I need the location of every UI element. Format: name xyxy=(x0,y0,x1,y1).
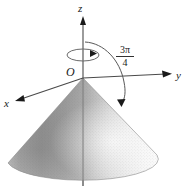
angle-label: 3π 4 xyxy=(116,44,134,68)
cone-halftone-texture xyxy=(0,60,189,190)
angle-arc-arrowhead xyxy=(117,99,126,107)
z-axis-label: z xyxy=(77,2,83,14)
angle-numerator: 3π xyxy=(120,44,130,55)
cone-surface xyxy=(0,60,189,190)
angle-denominator: 4 xyxy=(123,57,128,68)
y-axis-line xyxy=(83,74,166,78)
figure-canvas: z y xyxy=(0,0,189,190)
y-axis-label: y xyxy=(175,69,181,81)
x-axis-label: x xyxy=(3,97,9,109)
y-axis-arrowhead xyxy=(162,71,172,78)
z-axis-arrowhead xyxy=(80,16,86,25)
y-axis: y xyxy=(83,69,181,81)
origin-label: O xyxy=(66,65,75,79)
spherical-cone-figure: z y xyxy=(0,0,189,190)
x-axis-arrowhead xyxy=(15,95,25,102)
